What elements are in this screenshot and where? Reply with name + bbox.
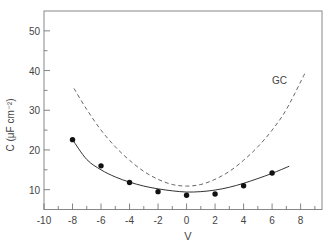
gc-annotation: GC bbox=[272, 75, 287, 86]
data-point bbox=[184, 193, 189, 198]
y-axis-label: C (μF cm⁻²) bbox=[5, 99, 16, 152]
plot-frame bbox=[44, 11, 322, 210]
data-point bbox=[212, 191, 217, 196]
y-tick-label: 10 bbox=[29, 185, 41, 196]
x-tick-label: -4 bbox=[125, 215, 134, 226]
y-tick-label: 20 bbox=[29, 145, 41, 156]
data-point bbox=[70, 137, 75, 142]
data-point bbox=[269, 170, 274, 175]
y-axis-ticks: 1020304050 bbox=[29, 26, 50, 196]
data-point bbox=[155, 189, 160, 194]
x-tick-label: -2 bbox=[154, 215, 163, 226]
x-tick-label: -8 bbox=[68, 215, 77, 226]
x-tick-label: 4 bbox=[241, 215, 247, 226]
y-tick-label: 40 bbox=[29, 66, 41, 77]
y-tick-label: 50 bbox=[29, 26, 41, 37]
y-tick-label: 30 bbox=[29, 105, 41, 116]
fit-curve bbox=[73, 140, 290, 192]
gc-curve bbox=[74, 73, 305, 186]
data-point bbox=[98, 163, 103, 168]
x-axis-label: V bbox=[184, 230, 192, 242]
x-tick-label: -6 bbox=[97, 215, 106, 226]
x-tick-label: -10 bbox=[37, 215, 52, 226]
data-point bbox=[241, 183, 246, 188]
x-axis-ticks: -10-8-6-4-202468 bbox=[37, 204, 315, 226]
x-tick-label: 0 bbox=[184, 215, 190, 226]
data-point bbox=[127, 180, 132, 185]
x-tick-label: 8 bbox=[298, 215, 304, 226]
x-tick-label: 6 bbox=[269, 215, 275, 226]
data-points bbox=[70, 137, 275, 198]
capacitance-voltage-chart: -10-8-6-4-202468 1020304050 V C (μF cm⁻²… bbox=[0, 0, 331, 248]
x-tick-label: 2 bbox=[212, 215, 218, 226]
